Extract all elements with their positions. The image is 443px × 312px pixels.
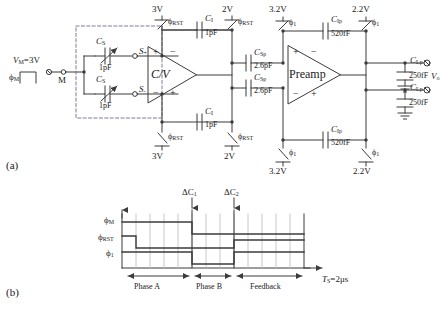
period-label: TS=2μs [322, 275, 348, 284]
event-label-dc2: ΔC2 [224, 188, 239, 197]
cs-bottom-label: CS [96, 75, 105, 84]
panel-a-label: (a) [6, 160, 18, 171]
supply-3v-bottom: 3V [152, 152, 163, 161]
cap-csp-bottom [246, 80, 251, 96]
clp-top-label: CLp [410, 56, 423, 65]
feedback-label: Feedback [250, 283, 281, 291]
cv-input-minus-top: − [170, 47, 176, 57]
csp-top-value: 2.6pF [254, 62, 272, 70]
csp-bottom-value: 2.6pF [254, 87, 272, 95]
ci-top-label: CI [205, 14, 213, 23]
phi-m-pulse-symbol [20, 72, 36, 83]
waveform-phi-m [122, 222, 304, 234]
ground-bottom [398, 113, 412, 119]
phase-a-label: Phase A [134, 283, 160, 291]
ci-bottom-label: CI [205, 107, 213, 116]
output-terminal-bottom [424, 87, 430, 93]
phi1-label-4: ϕ1 [372, 149, 379, 157]
event-label-dc1: ΔC1 [182, 188, 197, 197]
cv-input-plus-bot: + [170, 88, 176, 98]
signal-label-phi-1: ϕ1 [106, 249, 114, 258]
supply-22v-top: 2.2V [352, 5, 370, 14]
phi1-switch-32v-top [276, 17, 290, 30]
node-s-minus-label: S- [139, 85, 146, 94]
csp-bottom-label: CSp [254, 73, 266, 82]
figure-root: (a) (b) VM=3V ϕM M CS 1pF S+ CS 1pF S- C… [0, 0, 443, 312]
clp-bottom-label: CLp [410, 83, 423, 92]
cap-cip-bottom [323, 132, 328, 148]
supply-3v-top: 3V [152, 5, 163, 14]
preamp-input-minus-top: − [311, 47, 317, 57]
cip-top-value: 520fF [331, 30, 350, 38]
node-m-label: M [58, 76, 66, 85]
waveform-phi-1 [122, 252, 304, 264]
clp-bottom-value: 250fF [409, 99, 428, 107]
signal-label-phi-rst: ϕRST [98, 233, 114, 242]
supply-32v-bottom: 3.2V [269, 167, 287, 176]
cip-bottom-value: 520fF [331, 139, 350, 147]
csp-top-label: CSp [254, 48, 266, 57]
phi1-switch-22v-top [359, 17, 373, 30]
cs-top-label: CS [96, 37, 105, 46]
ci-bottom-value: 1pF [205, 121, 217, 129]
preamp-label: Preamp [289, 68, 326, 80]
phi-rst-label-4: ϕRST [238, 133, 253, 141]
cip-bottom-label: CIp [331, 125, 342, 134]
phase-b-label: Phase B [196, 283, 222, 291]
phi-rst-label-3: ϕRST [168, 133, 183, 141]
preamp-input-plus-bot: + [311, 89, 317, 99]
panel-b-label: (b) [6, 287, 19, 298]
phi1-switch-22v-bottom [359, 140, 373, 166]
reset-switch-2v-top [225, 16, 239, 29]
supply-32v-top: 3.2V [269, 5, 287, 14]
sensor-dashed-box [76, 26, 162, 118]
cv-amp-label: C/V [151, 68, 170, 80]
ci-top-value: 1pF [205, 29, 217, 37]
phi-m-label: ϕM [9, 73, 19, 82]
phi1-switch-32v-bottom [276, 140, 290, 166]
vm-label: VM=3V [13, 56, 40, 65]
cv-input-minus-bot: − [153, 88, 159, 98]
cap-csp-top [246, 55, 251, 71]
node-s-plus [133, 54, 138, 59]
reset-switch-3v-bottom [155, 122, 169, 150]
cip-top-label: CIp [331, 15, 342, 24]
waveform-phi-rst [122, 236, 304, 248]
reset-switch-2v-bottom [225, 122, 239, 150]
phi1-label-2: ϕ1 [372, 19, 379, 27]
supply-2v-top: 2V [222, 5, 233, 14]
phi1-label-3: ϕ1 [289, 149, 296, 157]
clp-top-value: 250fF [409, 72, 428, 80]
phi-rst-label-1: ϕRST [168, 18, 183, 26]
cap-cip-top [323, 23, 328, 39]
phi-rst-label-2: ϕRST [238, 18, 253, 26]
output-terminal-top [424, 60, 430, 66]
signal-label-phi-m: ϕM [104, 216, 114, 225]
node-s-minus [133, 92, 138, 97]
preamp-input-minus-bot: − [293, 89, 299, 99]
cs-bottom-value: 1pF [99, 102, 111, 110]
node-s-plus-label: S+ [139, 47, 147, 56]
supply-22v-bottom: 2.2V [353, 167, 371, 176]
supply-2v-bottom: 2V [224, 152, 235, 161]
vout-label: Vo [431, 72, 440, 81]
preamp-input-plus-top: + [293, 47, 299, 57]
cv-input-plus-top: + [153, 47, 159, 57]
phi1-label-1: ϕ1 [289, 19, 296, 27]
cs-top-value: 1pF [99, 64, 111, 72]
node-m-dot [61, 70, 66, 75]
